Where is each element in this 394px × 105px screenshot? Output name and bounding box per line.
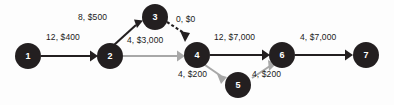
node-5[interactable]: 5	[225, 72, 251, 98]
node-6[interactable]: 6	[269, 42, 295, 68]
arrowhead-icon	[180, 31, 190, 42]
arrowhead-icon	[177, 51, 185, 62]
edge-2-to-4	[123, 51, 185, 62]
graph-canvas: 1 2 3 4 5 6 7	[0, 0, 394, 105]
node-label: 2	[107, 51, 112, 61]
edge-label-2-to-4: 4, $3,000	[127, 36, 163, 45]
arrowhead-icon	[90, 51, 98, 62]
node-label: 1	[25, 51, 30, 61]
edge-3-to-4	[167, 22, 190, 42]
edge-line	[205, 65, 221, 76]
arrowhead-icon	[345, 50, 353, 61]
node-label: 4	[194, 50, 199, 60]
edge-4-to-5	[205, 65, 227, 84]
node-label: 7	[363, 50, 368, 60]
edge-label-5-to-6: 4, $200	[252, 70, 281, 79]
node-2[interactable]: 2	[97, 43, 123, 69]
arrowhead-icon	[262, 50, 270, 61]
node-3[interactable]: 3	[142, 4, 168, 30]
edge-6-to-7	[295, 50, 353, 61]
edge-4-to-6	[210, 50, 270, 61]
node-4[interactable]: 4	[184, 42, 210, 68]
node-label: 5	[235, 80, 240, 90]
edge-label-4-to-6: 12, $7,000	[214, 33, 255, 42]
edge-label-1-to-2: 12, $400	[46, 33, 80, 42]
edge-label-6-to-7: 4, $7,000	[300, 33, 336, 42]
edge-label-3-to-4: 0, $0	[176, 15, 195, 24]
edge-label-2-to-3: 8, $500	[78, 13, 107, 22]
node-label: 6	[279, 50, 284, 60]
edge-label-4-to-5: 4, $200	[178, 70, 207, 79]
network-flow-diagram: 1 2 3 4 5 6 7 12, $400 8, $500 4,	[0, 0, 394, 105]
node-label: 3	[152, 12, 157, 22]
node-1[interactable]: 1	[15, 43, 41, 69]
node-7[interactable]: 7	[353, 42, 379, 68]
edge-1-to-2	[41, 51, 98, 62]
